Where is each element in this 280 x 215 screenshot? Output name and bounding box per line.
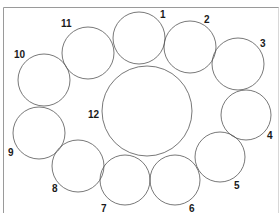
circle-9 [13, 107, 65, 159]
circle-label-11: 11 [61, 18, 72, 29]
circle-label-12: 12 [88, 109, 100, 120]
circle-10 [18, 54, 70, 106]
circle-label-5: 5 [234, 180, 240, 191]
circle-label-7: 7 [101, 203, 107, 214]
circle-label-3: 3 [260, 38, 266, 49]
circle-label-4: 4 [267, 130, 273, 141]
circle-12 [102, 66, 192, 156]
circle-label-8: 8 [52, 183, 58, 194]
circles-group [13, 12, 271, 205]
circle-8 [52, 140, 104, 192]
circle-label-1: 1 [160, 9, 166, 20]
circle-11 [62, 27, 114, 79]
circle-4 [221, 90, 271, 140]
circle-3 [212, 38, 264, 90]
circle-label-2: 2 [204, 14, 210, 25]
circle-label-6: 6 [189, 203, 195, 214]
circle-label-9: 9 [8, 147, 14, 158]
circle-diagram: 123456789101112 [0, 0, 280, 215]
circle-7 [100, 155, 150, 205]
circle-5 [195, 132, 245, 182]
circle-label-10: 10 [14, 49, 26, 60]
circle-2 [164, 21, 216, 73]
circle-6 [150, 155, 200, 205]
labels-group: 123456789101112 [8, 9, 273, 214]
circle-1 [113, 12, 165, 64]
